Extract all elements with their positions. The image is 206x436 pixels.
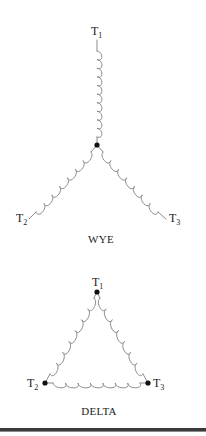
wye-terminal-t2-label: T2: [16, 212, 27, 224]
wye-delta-diagram: T1 T2 T3 WYE T1 T2 T3 DELTA: [0, 0, 206, 436]
delta-terminal-t3-label: T3: [153, 377, 164, 389]
wye-coil-t3: [102, 152, 158, 214]
wye-terminal-t3-label: T3: [169, 212, 180, 224]
delta-node-t3: [145, 380, 150, 385]
delta-coil-t1-t3: [98, 298, 143, 376]
wye-terminal-t1-label: T1: [91, 25, 102, 37]
delta-terminal-t1-label: T1: [92, 276, 103, 288]
wye-coil-t2: [36, 152, 92, 214]
delta-coil-t1-t2: [50, 298, 96, 376]
delta-coil-t2-t3: [53, 383, 141, 388]
delta-terminal-t2-label: T2: [27, 377, 38, 389]
bottom-rule: [0, 428, 206, 432]
wye-lead-t2: [29, 212, 36, 219]
delta-node-t2: [42, 380, 47, 385]
wye-coil-t1: [97, 51, 102, 138]
wye-center-node: [94, 142, 99, 147]
wye-caption: WYE: [61, 233, 141, 245]
delta-caption: DELTA: [59, 405, 139, 417]
wye-lead-t3: [158, 212, 166, 219]
